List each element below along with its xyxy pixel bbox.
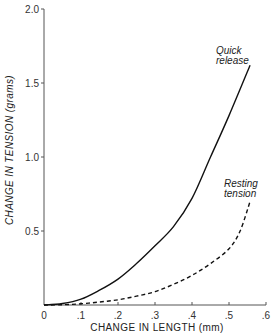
x-axis-title: CHANGE IN LENGTH (mm) [90,322,223,333]
x-tick-label: .3 [151,310,160,321]
quick-release-label-line2: release [216,55,249,66]
y-tick-label: 0.5 [25,226,39,237]
resting-tension-label-line2: tension [224,188,257,199]
y-tick-label: 1.5 [25,78,39,89]
x-tick-label: .1 [77,310,86,321]
x-tick-label: .5 [225,310,234,321]
y-axis-title: CHANGE IN TENSION (grams) [4,75,15,225]
x-tick-label: .4 [188,310,197,321]
y-tick-label: 1.0 [25,152,39,163]
x-tick-label: 0 [41,310,47,321]
y-tick-label: 2.0 [25,4,39,15]
tension-length-chart: 0.1.2.3.4.5.6 0.51.01.52.0 Quick release… [0,0,271,336]
x-tick-label: .6 [262,310,271,321]
x-tick-label: .2 [114,310,123,321]
